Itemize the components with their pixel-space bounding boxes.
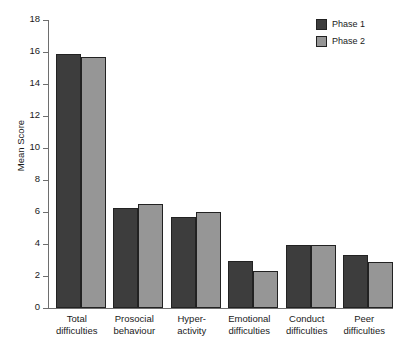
y-axis-tick: 12 <box>43 116 48 117</box>
bar-phase-1 <box>56 54 81 308</box>
x-axis-label-line: Peer <box>330 313 400 325</box>
y-axis-label: Mean Score <box>15 86 26 206</box>
bar-phase-1 <box>343 255 368 308</box>
bar-phase-2 <box>253 271 278 308</box>
bar-group <box>113 20 163 308</box>
y-axis-tick: 14 <box>43 84 48 85</box>
y-axis-tick-label: 0 <box>35 301 40 312</box>
bar-group <box>343 20 393 308</box>
x-axis-line <box>48 308 393 309</box>
y-axis-tick: 6 <box>43 212 48 213</box>
bar-phase-1 <box>171 217 196 308</box>
bar-phase-2 <box>368 262 393 308</box>
y-axis-tick: 10 <box>43 148 48 149</box>
bar-phase-2 <box>196 212 221 308</box>
y-axis-tick: 4 <box>43 244 48 245</box>
y-axis-tick-label: 14 <box>29 77 40 88</box>
y-axis-tick: 18 <box>43 20 48 21</box>
y-axis-tick-label: 2 <box>35 269 40 280</box>
y-axis-tick-label: 10 <box>29 141 40 152</box>
y-axis-tick-label: 16 <box>29 45 40 56</box>
y-axis-tick-label: 12 <box>29 109 40 120</box>
bar-group <box>56 20 106 308</box>
bar-group <box>228 20 278 308</box>
y-axis-tick-label: 4 <box>35 237 40 248</box>
y-axis-tick: 16 <box>43 52 48 53</box>
bar-phase-1 <box>113 208 138 308</box>
bar-group <box>171 20 221 308</box>
bar-phase-1 <box>286 245 311 308</box>
bar-phase-2 <box>81 57 106 308</box>
plot-area: 181614121086420 <box>48 20 393 308</box>
bar-chart: Phase 1 Phase 2 Mean Score 1816141210864… <box>0 0 401 356</box>
bar-phase-2 <box>138 204 163 308</box>
y-axis-tick: 0 <box>43 308 48 309</box>
y-axis-tick: 8 <box>43 180 48 181</box>
x-axis-label-line: difficulties <box>330 325 400 337</box>
bar-phase-2 <box>311 245 336 308</box>
y-axis-line <box>48 20 49 309</box>
x-axis-label: Peerdifficulties <box>330 313 400 336</box>
y-axis-tick: 2 <box>43 276 48 277</box>
y-axis-tick-label: 6 <box>35 205 40 216</box>
y-axis-tick-label: 18 <box>29 13 40 24</box>
bar-phase-1 <box>228 261 253 308</box>
y-axis-tick-label: 8 <box>35 173 40 184</box>
bar-group <box>286 20 336 308</box>
